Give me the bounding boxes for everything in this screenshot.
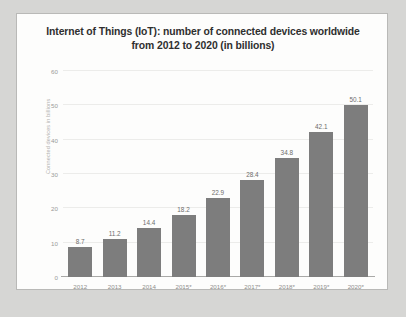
bar[interactable] xyxy=(309,132,333,277)
bar[interactable] xyxy=(275,158,299,277)
bar-value-label: 50.1 xyxy=(349,96,361,103)
bar-item[interactable]: 8.72012 xyxy=(63,71,97,277)
bar[interactable] xyxy=(103,239,127,277)
bar-item[interactable]: 18.22015* xyxy=(166,71,200,277)
bar-value-label: 42.1 xyxy=(315,123,327,130)
y-axis-tick-label: 50 xyxy=(51,102,58,109)
bar-value-label: 18.2 xyxy=(177,206,189,213)
bar-item[interactable]: 34.82018* xyxy=(270,71,304,277)
bar[interactable] xyxy=(68,247,92,277)
y-axis-tick-label: 0 xyxy=(55,274,58,281)
bar[interactable] xyxy=(344,105,368,277)
x-axis-tick-label: 2017* xyxy=(244,283,260,290)
chart-panel: Internet of Things (IoT): number of conn… xyxy=(16,13,388,290)
bar-item[interactable]: 11.22013 xyxy=(97,71,131,277)
bar-value-label: 11.2 xyxy=(109,230,121,237)
bar-item[interactable]: 50.12020* xyxy=(339,71,373,277)
x-axis-tick-label: 2014 xyxy=(142,283,156,290)
bar-value-label: 28.4 xyxy=(246,171,258,178)
x-axis-tick-label: 2019* xyxy=(313,283,329,290)
x-axis-tick-label: 2018* xyxy=(279,283,295,290)
y-axis-tick-label: 40 xyxy=(51,136,58,143)
x-axis-tick-label: 2012 xyxy=(73,283,87,290)
chart-title-line-1: Internet of Things (IoT): number of conn… xyxy=(17,25,389,39)
bar-item[interactable]: 42.12019* xyxy=(304,71,338,277)
x-axis-tick-label: 2016* xyxy=(210,283,226,290)
bar[interactable] xyxy=(240,180,264,278)
bar[interactable] xyxy=(137,228,161,277)
plot-area: 0102030405060 8.7201211.2201314.4201418.… xyxy=(63,71,373,277)
y-axis-tick-label: 20 xyxy=(51,205,58,212)
bar-value-label: 8.7 xyxy=(76,238,85,245)
bar[interactable] xyxy=(172,215,196,277)
bar-value-label: 34.8 xyxy=(281,149,293,156)
bar-series: 8.7201211.2201314.4201418.22015*22.92016… xyxy=(63,71,373,277)
chart-title: Internet of Things (IoT): number of conn… xyxy=(17,25,389,53)
bar-value-label: 22.9 xyxy=(212,189,224,196)
bar-item[interactable]: 22.92016* xyxy=(201,71,235,277)
bar-value-label: 14.4 xyxy=(143,219,155,226)
y-axis-tick-label: 10 xyxy=(51,239,58,246)
chart-title-line-2: from 2012 to 2020 (in billions) xyxy=(17,39,389,53)
bar-item[interactable]: 28.42017* xyxy=(235,71,269,277)
x-axis-tick-label: 2013 xyxy=(108,283,122,290)
y-axis-tick-label: 60 xyxy=(51,68,58,75)
y-axis-tick-label: 30 xyxy=(51,171,58,178)
y-axis-label: Connected devices in billions xyxy=(45,99,51,174)
bar[interactable] xyxy=(206,198,230,277)
bar-item[interactable]: 14.42014 xyxy=(132,71,166,277)
x-axis-tick-label: 2015* xyxy=(175,283,191,290)
x-axis-tick-label: 2020* xyxy=(348,283,364,290)
chart-screenshot: Internet of Things (IoT): number of conn… xyxy=(0,0,406,317)
